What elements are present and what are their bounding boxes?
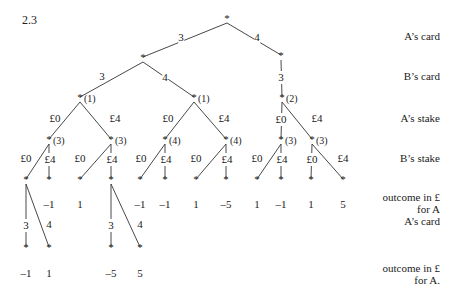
tree-node: * (46, 174, 52, 185)
row-label: A’s stake (0, 113, 440, 124)
tree-node: * (46, 242, 52, 253)
tree-node: * (23, 242, 29, 253)
node-annotation: (4) (169, 136, 181, 146)
tree-node: * (140, 52, 146, 63)
row-label: for A. (0, 275, 440, 286)
node-annotation: (3) (115, 136, 127, 146)
tree-node: * (108, 134, 114, 145)
tree-node: * (193, 174, 199, 185)
tree-node: * (278, 50, 284, 61)
tree-node: * (77, 92, 83, 103)
row-label: B’s card (0, 71, 440, 82)
tree-node: * (278, 134, 284, 145)
figure-label: 2.3 (22, 15, 37, 26)
node-annotation: (1) (198, 94, 210, 104)
tree-node: * (108, 242, 114, 253)
node-annotation: (1) (84, 94, 96, 104)
tree-node: * (23, 174, 29, 185)
row-label: A’s card (0, 216, 440, 227)
row-label: A’s card (0, 31, 440, 42)
node-annotation: (3) (53, 136, 65, 146)
tree-edges (0, 0, 462, 294)
tree-node: * (340, 174, 346, 185)
row-label: outcome in £ (0, 192, 440, 203)
tree-node: * (46, 134, 52, 145)
tree-node: * (309, 134, 315, 145)
node-annotation: (4) (230, 136, 242, 146)
node-annotation: (3) (285, 136, 297, 146)
tree-node: * (279, 92, 285, 103)
row-label: B’s stake (0, 153, 440, 164)
node-annotation: (2) (286, 94, 298, 104)
tree-node: * (162, 174, 168, 185)
tree-node: * (223, 134, 229, 145)
tree-node: * (191, 92, 197, 103)
tree-node: * (77, 174, 83, 185)
tree-node: * (254, 174, 260, 185)
tree-node: * (108, 174, 114, 185)
node-annotation: (3) (316, 136, 328, 146)
tree-node: * (278, 174, 284, 185)
tree-node: * (137, 174, 143, 185)
tree-node: * (137, 242, 143, 253)
row-label: for A (0, 204, 440, 215)
tree-node: * (223, 174, 229, 185)
row-label: outcome in £ (0, 263, 440, 274)
tree-node: * (224, 13, 230, 24)
tree-node: * (162, 134, 168, 145)
tree-node: * (308, 174, 314, 185)
